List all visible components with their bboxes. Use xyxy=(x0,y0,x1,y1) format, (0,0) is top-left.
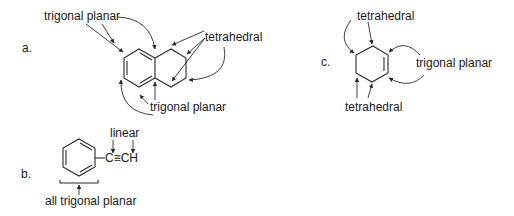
alkyne-substituent: C≡CH xyxy=(105,151,138,165)
panel-a-top-label: trigonal planar xyxy=(44,9,120,23)
panel-c: c. tetrahedral trigonal planar tetrahedr… xyxy=(321,9,492,114)
panel-a-bottom-label: trigonal planar xyxy=(150,100,226,114)
panel-c-marker: c. xyxy=(321,55,330,69)
panel-b-top-label: linear xyxy=(110,126,139,140)
panel-b-marker: b. xyxy=(21,167,31,181)
panel-b: b. linear all trigonal planar C≡CH xyxy=(21,126,139,208)
tetralin-structure xyxy=(124,49,186,87)
panel-a-marker: a. xyxy=(22,41,32,55)
hybridization-geometry-diagram: a. trigonal planar tetrahedral trigonal … xyxy=(0,0,514,216)
panel-c-right-label: trigonal planar xyxy=(416,56,492,70)
panel-c-top-label: tetrahedral xyxy=(357,9,414,23)
panel-a-right-label: tetrahedral xyxy=(205,30,262,44)
panel-b-bottom-label: all trigonal planar xyxy=(45,194,136,208)
phenylacetylene-structure: C≡CH xyxy=(63,139,138,176)
panel-c-bottom-label: tetrahedral xyxy=(345,100,402,114)
panel-b-arrows xyxy=(60,140,133,195)
cyclohexene-structure xyxy=(356,46,388,82)
panel-a: a. trigonal planar tetrahedral trigonal … xyxy=(22,9,262,115)
